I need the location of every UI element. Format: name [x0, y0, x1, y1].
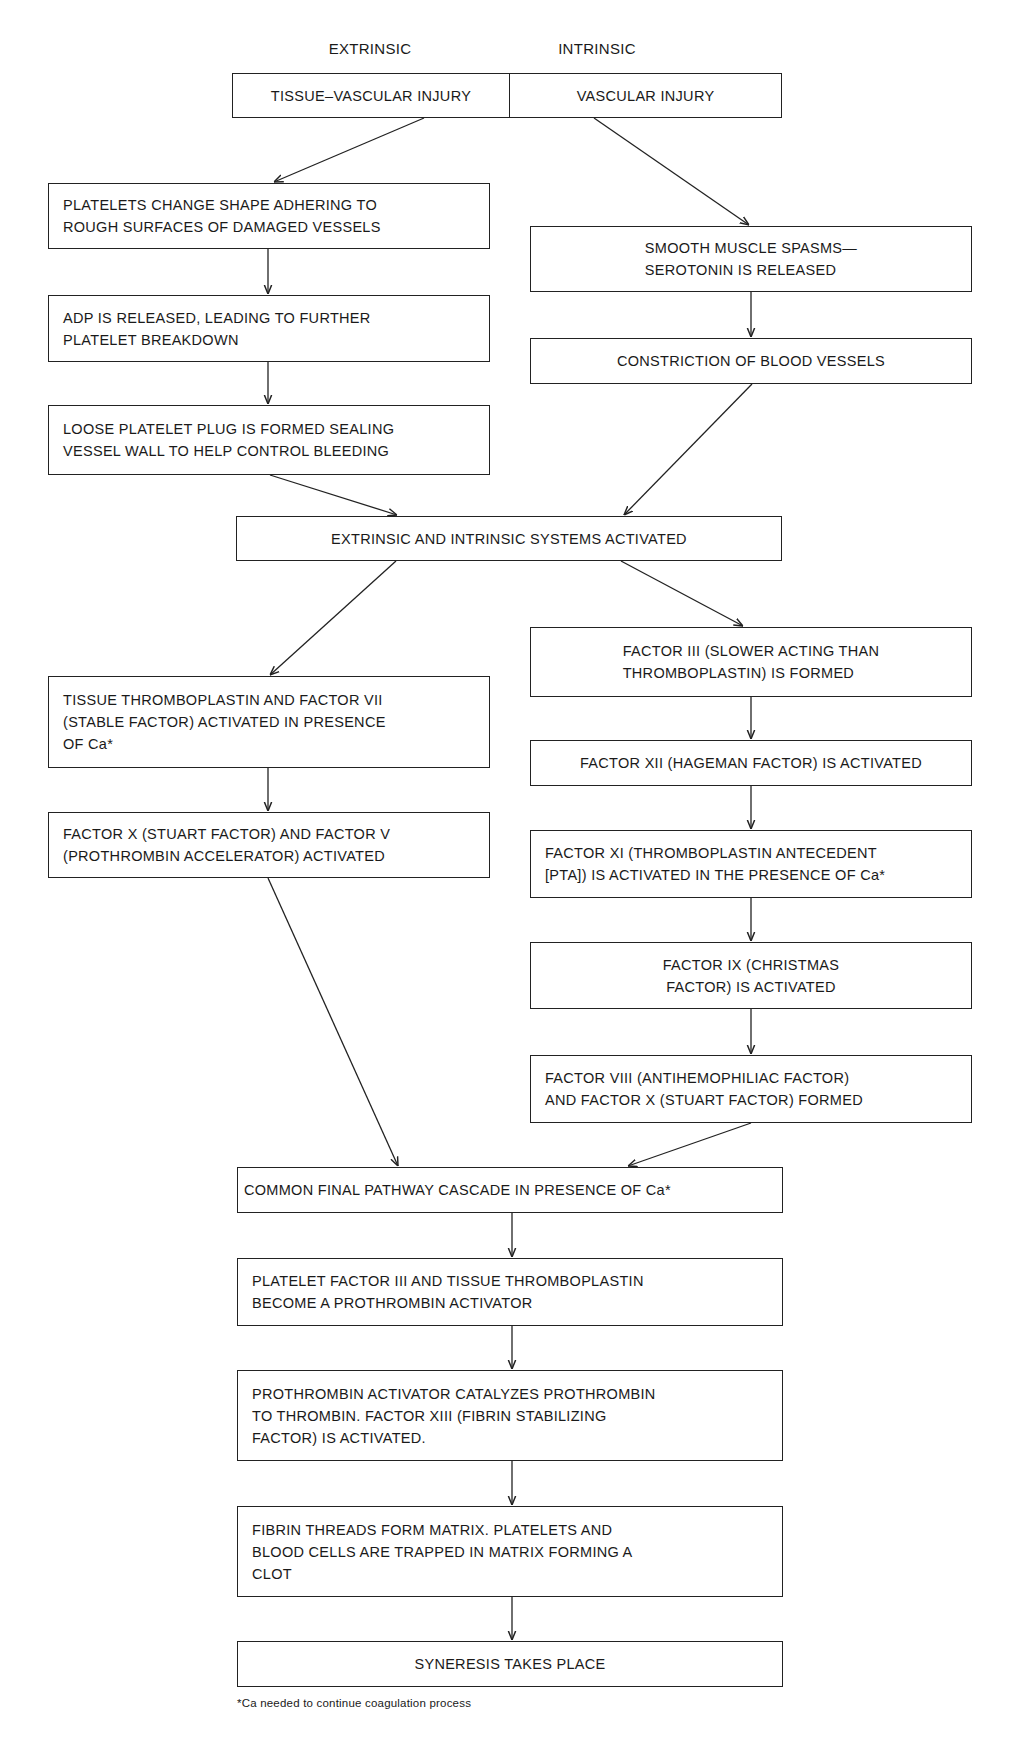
tissue-thromboplastin-box: TISSUE THROMBOPLASTIN AND FACTOR VII (ST… — [48, 676, 490, 768]
calcium-footnote: *Ca needed to continue coagulation proce… — [237, 1697, 471, 1709]
adp-released-box: ADP IS RELEASED, LEADING TO FURTHER PLAT… — [48, 295, 490, 362]
factor-ix-box: FACTOR IX (CHRISTMAS FACTOR) IS ACTIVATE… — [530, 942, 972, 1009]
fibrin-matrix-box: FIBRIN THREADS FORM MATRIX. PLATELETS AN… — [237, 1506, 783, 1597]
prothrombin-activator-box: PLATELET FACTOR III AND TISSUE THROMBOPL… — [237, 1258, 783, 1326]
factor-xi-box: FACTOR XI (THROMBOPLASTIN ANTECEDENT [PT… — [530, 830, 972, 898]
thrombin-conversion-box: PROTHROMBIN ACTIVATOR CATALYZES PROTHROM… — [237, 1370, 783, 1461]
common-final-pathway-box: COMMON FINAL PATHWAY CASCADE IN PRESENCE… — [237, 1167, 783, 1213]
factor-x-v-box: FACTOR X (STUART FACTOR) AND FACTOR V (P… — [48, 812, 490, 878]
systems-activated-box: EXTRINSIC AND INTRINSIC SYSTEMS ACTIVATE… — [236, 516, 782, 561]
tissue-vascular-injury: TISSUE–VASCULAR INJURY — [233, 74, 510, 117]
intrinsic-column-label: INTRINSIC — [527, 40, 667, 57]
vascular-injury: VASCULAR INJURY — [510, 74, 781, 117]
loose-platelet-plug-box: LOOSE PLATELET PLUG IS FORMED SEALING VE… — [48, 405, 490, 475]
factor-iii-box: FACTOR III (SLOWER ACTING THAN THROMBOPL… — [530, 627, 972, 697]
platelets-change-shape-box: PLATELETS CHANGE SHAPE ADHERING TO ROUGH… — [48, 183, 490, 249]
smooth-muscle-spasms-box: SMOOTH MUSCLE SPASMS— SEROTONIN IS RELEA… — [530, 226, 972, 292]
injury-box: TISSUE–VASCULAR INJURY VASCULAR INJURY — [232, 73, 782, 118]
factor-xii-box: FACTOR XII (HAGEMAN FACTOR) IS ACTIVATED — [530, 740, 972, 786]
constriction-box: CONSTRICTION OF BLOOD VESSELS — [530, 338, 972, 384]
syneresis-box: SYNERESIS TAKES PLACE — [237, 1641, 783, 1687]
extrinsic-column-label: EXTRINSIC — [300, 40, 440, 57]
factor-viii-box: FACTOR VIII (ANTIHEMOPHILIAC FACTOR) AND… — [530, 1055, 972, 1123]
